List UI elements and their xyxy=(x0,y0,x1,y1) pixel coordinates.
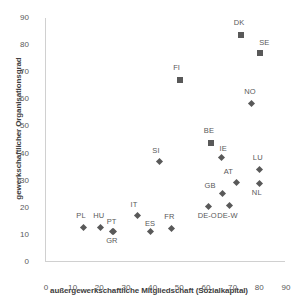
data-point-label: FR xyxy=(164,213,174,221)
diamond-marker-icon xyxy=(134,212,141,219)
data-point-label: PL xyxy=(76,212,85,220)
data-point-label: NO xyxy=(244,88,255,96)
y-tick-label: 20 xyxy=(7,204,29,212)
data-point-label: AT xyxy=(224,168,233,176)
data-point-label: HU xyxy=(93,212,104,220)
y-tick-label: 30 xyxy=(7,177,29,185)
x-tick-label: 40 xyxy=(141,284,165,292)
diamond-marker-icon xyxy=(80,224,87,231)
data-point-label: ES xyxy=(145,220,155,228)
square-marker-icon xyxy=(238,32,244,38)
diamond-marker-icon xyxy=(233,178,240,185)
x-tick-label: 80 xyxy=(247,284,271,292)
diamond-marker-icon xyxy=(226,202,233,209)
y-tick-label: 70 xyxy=(7,68,29,76)
x-tick-label: 20 xyxy=(87,284,111,292)
diamond-marker-icon xyxy=(218,154,225,161)
x-tick-label: 0 xyxy=(34,284,58,292)
y-tick-label: 40 xyxy=(7,150,29,158)
data-point-label: DK xyxy=(234,19,245,27)
y-tick-label: 60 xyxy=(7,95,29,103)
diamond-marker-icon xyxy=(168,225,175,232)
data-point-label: PT xyxy=(107,218,117,226)
y-tick-label: 80 xyxy=(7,41,29,49)
square-marker-icon xyxy=(208,140,214,146)
y-tick-label: 0 xyxy=(7,258,29,266)
x-tick-label: 10 xyxy=(61,284,85,292)
scatter-chart: gewerkschaftlicher Organisationsgrad auß… xyxy=(0,0,298,306)
x-tick-label: 90 xyxy=(274,284,298,292)
diamond-marker-icon xyxy=(219,190,226,197)
data-point-label: LU xyxy=(253,154,263,162)
x-tick-label: 30 xyxy=(114,284,138,292)
square-marker-icon xyxy=(177,77,183,83)
data-point-label: NL xyxy=(252,189,262,197)
diamond-marker-icon xyxy=(248,100,255,107)
plot-area: 0102030405060708090 0102030405060708090 … xyxy=(45,18,285,262)
diamond-marker-icon xyxy=(156,158,163,165)
diamond-marker-icon xyxy=(205,203,212,210)
data-point-label: IE xyxy=(219,145,226,153)
x-tick-label: 70 xyxy=(221,284,245,292)
data-point-label: DE-W xyxy=(217,212,237,220)
data-point-label: SE xyxy=(259,39,269,47)
y-tick-label: 50 xyxy=(7,122,29,130)
square-marker-icon xyxy=(257,50,263,56)
diamond-marker-icon xyxy=(256,180,263,187)
data-point-label: SI xyxy=(152,147,159,155)
x-tick-label: 60 xyxy=(194,284,218,292)
y-tick-label: 90 xyxy=(7,14,29,22)
diamond-marker-icon xyxy=(97,224,104,231)
y-tick-label: 10 xyxy=(7,231,29,239)
data-point-label: FI xyxy=(173,64,180,72)
diamond-marker-icon xyxy=(256,166,263,173)
data-point-label: IT xyxy=(130,201,137,209)
data-point-label: GR xyxy=(106,237,117,245)
data-point-label: GB xyxy=(205,182,216,190)
data-point-label: BE xyxy=(204,127,214,135)
diamond-marker-icon xyxy=(146,228,153,235)
data-point-label: DE-O xyxy=(198,212,217,220)
x-tick-label: 50 xyxy=(167,284,191,292)
